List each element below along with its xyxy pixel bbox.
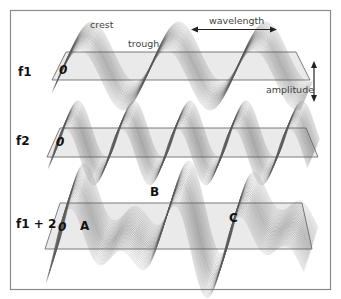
crest-label: crest <box>90 19 114 30</box>
f12-label: f1 + 2 <box>16 217 56 231</box>
f1-wave-group: f1 0 crest trough wavelength amplitude <box>18 15 317 110</box>
f2-label: f2 <box>16 134 30 148</box>
point-c-label: C <box>229 211 238 225</box>
point-a-label: A <box>80 219 90 233</box>
f2-wave-group: f2 0 <box>16 101 320 185</box>
f1-label: f1 <box>18 65 32 79</box>
f12-wave-group: f1 + 2 0 A B C <box>16 161 318 297</box>
wavelength-label: wavelength <box>209 15 264 26</box>
point-b-label: B <box>150 185 159 199</box>
wave-diagram: f1 0 crest trough wavelength amplitude f… <box>0 0 341 299</box>
wavelength-arrow <box>191 27 277 33</box>
f2-zero-label: 0 <box>56 135 64 149</box>
amplitude-label: amplitude <box>266 84 314 95</box>
f1-zero-label: 0 <box>59 63 67 77</box>
f12-zero-label: 0 <box>58 220 66 234</box>
trough-label: trough <box>128 38 159 49</box>
